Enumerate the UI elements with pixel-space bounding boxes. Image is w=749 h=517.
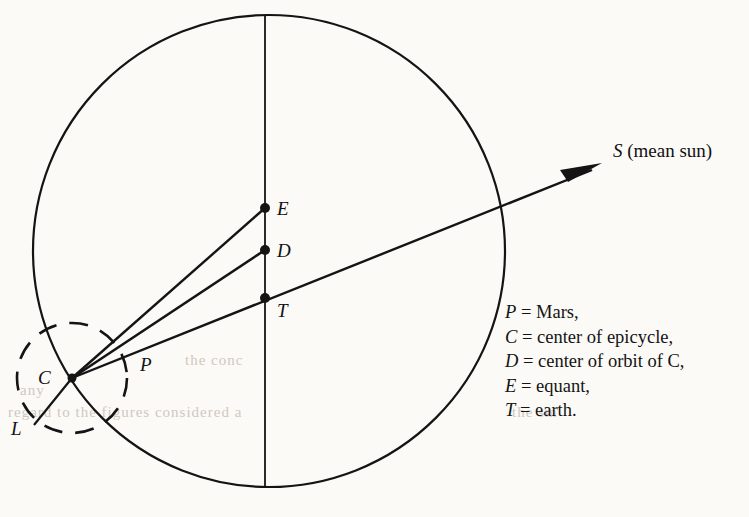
legend-symbol: P	[505, 302, 516, 322]
legend-row: E = equant,	[505, 374, 684, 399]
mean-sun-text: (mean sun)	[623, 140, 713, 161]
legend-row: P = Mars,	[505, 300, 684, 325]
point-label-c: C	[38, 368, 51, 387]
point-label-d: D	[277, 241, 291, 260]
point-marker-c	[68, 374, 77, 383]
legend-symbol: E	[505, 376, 516, 396]
legend-row: C = center of epicycle,	[505, 325, 684, 350]
point-marker-e	[260, 203, 270, 213]
sun-arrowhead	[560, 163, 602, 182]
legend-equals: =	[520, 400, 530, 420]
legend-equals: =	[522, 327, 532, 347]
legend-symbol: T	[505, 400, 515, 420]
point-marker-t	[260, 293, 270, 303]
legend-definition: earth.	[535, 400, 577, 420]
point-marker-d	[260, 245, 270, 255]
legend-equals: =	[521, 376, 531, 396]
legend-definition: center of epicycle,	[537, 327, 673, 347]
ray-c-to-e	[72, 208, 265, 378]
legend-definition: Mars,	[536, 302, 579, 322]
point-label-p: P	[140, 355, 152, 374]
legend-equals: =	[521, 302, 531, 322]
legend-symbol: C	[505, 327, 517, 347]
legend-symbol: D	[505, 351, 518, 371]
point-label-e: E	[277, 199, 289, 218]
orbit-diagram	[0, 0, 749, 517]
ray-c-to-d	[72, 250, 265, 378]
point-label-t: T	[277, 301, 288, 320]
mean-sun-symbol: S	[613, 140, 623, 161]
legend-equals: =	[523, 351, 533, 371]
legend-definition: equant,	[536, 376, 590, 396]
figure-canvas: the conc any regard to the figures consi…	[0, 0, 749, 517]
legend: P = Mars, C = center of epicycle, D = ce…	[505, 300, 684, 423]
mean-sun-label: S (mean sun)	[613, 141, 712, 160]
legend-definition: center of orbit of C,	[538, 351, 684, 371]
legend-row: T = earth.	[505, 398, 684, 423]
point-label-l: L	[11, 419, 22, 438]
legend-row: D = center of orbit of C,	[505, 349, 684, 374]
